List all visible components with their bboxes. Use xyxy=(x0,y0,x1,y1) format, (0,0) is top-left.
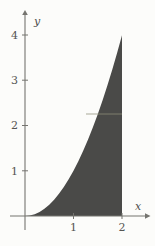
y-axis-tick-label-3: 3 xyxy=(4,75,18,86)
x-axis-tick-label-2: 2 xyxy=(115,222,129,233)
y-axis-tick-label-1: 1 xyxy=(4,166,18,177)
y-axis-tick-label-2: 2 xyxy=(4,120,18,131)
x-axis-arrow-icon xyxy=(145,213,151,219)
plot-canvas xyxy=(0,0,155,246)
y-axis-arrow-icon xyxy=(22,10,28,15)
x-axis-tick-label-1: 1 xyxy=(67,222,81,233)
y-axis-name-label: y xyxy=(34,16,40,27)
graph-figure: 1 2 3 4 1 2 y x xyxy=(0,0,155,246)
x-axis-name-label: x xyxy=(135,201,141,212)
shaded-area-under-curve xyxy=(25,35,122,216)
y-axis-tick-label-4: 4 xyxy=(4,30,18,41)
